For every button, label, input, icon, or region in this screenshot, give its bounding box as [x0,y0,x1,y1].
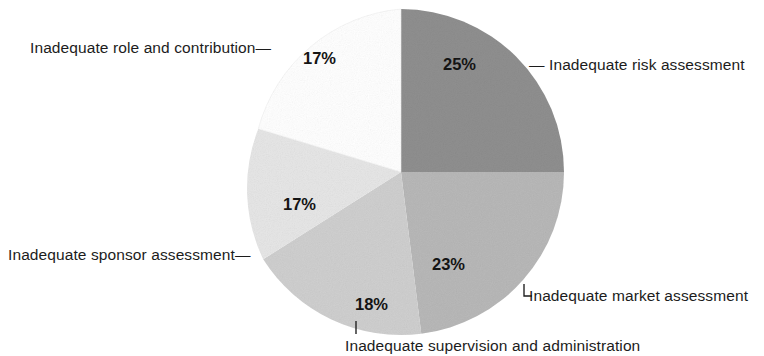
slice-label-supervision-and-administration: Inadequate supervision and administratio… [345,338,640,354]
slice-value-market-assessment: 23% [432,256,465,273]
pie-slice-market-assessment [401,172,564,334]
pie-chart: Inadequate role and contribution— — Inad… [0,0,764,356]
pie-slice-risk-assessment [401,9,564,172]
slice-value-supervision-and-administration: 18% [355,296,388,313]
slice-value-role-and-contribution: 17% [303,50,336,67]
slice-label-risk-assessment: — Inadequate risk assessment [529,57,745,73]
slice-label-sponsor-assessment: Inadequate sponsor assessment— [8,247,251,263]
slice-value-sponsor-assessment: 17% [283,196,316,213]
slice-label-market-assessment: Inadequate market assessment [529,288,748,304]
slice-value-risk-assessment: 25% [443,56,476,73]
slice-label-role-and-contribution: Inadequate role and contribution— [30,40,271,56]
